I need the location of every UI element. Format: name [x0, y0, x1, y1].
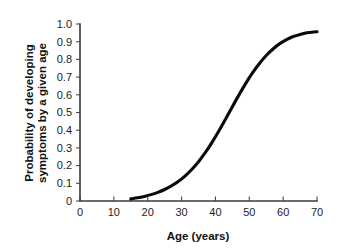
x-axis-title: Age (years)	[167, 230, 230, 242]
x-tick-label: 20	[142, 206, 154, 218]
y-tick-label: 0	[66, 195, 72, 207]
y-tick-label: 0.2	[57, 159, 72, 171]
y-tick-label: 0.7	[57, 71, 72, 83]
y-axis-title-line-1: Probability of developing	[23, 44, 35, 181]
y-tick-label: 0.4	[57, 124, 72, 136]
x-tick-label: 0	[77, 206, 83, 218]
x-tick-label: 70	[311, 206, 323, 218]
y-axis-tick-labels: 00.10.20.30.40.50.60.70.80.91.0	[57, 18, 72, 207]
probability-by-age-line-chart: 00.10.20.30.40.50.60.70.80.91.0 01020304…	[0, 0, 346, 252]
x-tick-label: 50	[243, 206, 255, 218]
y-tick-label: 0.3	[57, 142, 72, 154]
y-axis-title-line-2: symptoms by a given age	[36, 43, 48, 183]
y-tick-label: 0.5	[57, 106, 72, 118]
y-tick-label: 0.1	[57, 177, 72, 189]
y-tick-label: 0.8	[57, 53, 72, 65]
figure-container: 00.10.20.30.40.50.60.70.80.91.0 01020304…	[0, 0, 346, 252]
y-tick-label: 0.6	[57, 89, 72, 101]
x-tick-label: 30	[175, 206, 187, 218]
x-tick-label: 10	[108, 206, 120, 218]
x-tick-label: 40	[209, 206, 221, 218]
y-tick-label: 0.9	[57, 36, 72, 48]
y-axis-title: Probability of developing symptoms by a …	[23, 43, 48, 183]
x-tick-label: 60	[277, 206, 289, 218]
y-tick-label: 1.0	[57, 18, 72, 30]
